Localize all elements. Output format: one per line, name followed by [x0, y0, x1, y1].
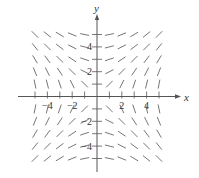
slope-segment [69, 69, 75, 75]
slope-segment [131, 44, 138, 49]
slope-segment [70, 80, 74, 88]
slope-segment [118, 33, 126, 36]
slope-segment [58, 105, 61, 113]
slope-segment [146, 80, 148, 88]
slope-segment [34, 105, 36, 113]
slope-segment [68, 157, 76, 160]
slope-segment [46, 80, 48, 88]
y-tick-label: 4 [87, 41, 92, 52]
slope-segment [156, 143, 161, 150]
slope-segment [144, 56, 149, 63]
slope-segment [69, 131, 76, 136]
y-tick-label: −2 [81, 116, 92, 127]
slope-segment [57, 68, 62, 75]
slope-segment [143, 156, 150, 161]
slope-segment [81, 132, 89, 135]
slope-segment [106, 70, 114, 74]
y-axis-label: y [93, 2, 99, 14]
slope-segment [69, 57, 76, 62]
x-tick-label: −2 [67, 100, 78, 111]
slope-segment [119, 69, 125, 75]
slope-segment [106, 119, 114, 123]
y-tick-label: −4 [81, 141, 92, 152]
slope-segment [133, 105, 136, 113]
slope-segment [105, 132, 113, 135]
slope-segment [145, 68, 149, 76]
slope-segment [68, 144, 76, 148]
slope-segment [143, 32, 150, 37]
slope-segment [144, 143, 150, 149]
slope-segment [157, 130, 161, 137]
slope-segment [58, 80, 61, 88]
slope-segment [118, 144, 126, 148]
slope-segment [56, 144, 63, 149]
axes [18, 14, 181, 172]
slope-segment [144, 44, 150, 50]
x-tick-label: 4 [144, 100, 149, 111]
x-axis-label: x [183, 91, 189, 103]
slope-segment [46, 68, 50, 76]
slope-segment [131, 56, 137, 62]
slope-segment [157, 68, 160, 76]
slope-segment [145, 118, 149, 126]
slope-segment [33, 117, 36, 125]
slope-segment [157, 117, 160, 125]
slope-segment [118, 45, 126, 49]
slope-field-figure: x y −4−224 42−2−4 [0, 0, 199, 178]
slope-segment [157, 56, 161, 63]
x-tick-label: −4 [42, 100, 53, 111]
slope-segment [57, 56, 63, 62]
slope-segment [46, 118, 50, 126]
slope-segment [82, 81, 88, 87]
slope-segment [156, 32, 162, 38]
slope-segment [33, 130, 37, 137]
slope-segment [158, 80, 160, 88]
slope-segment [57, 118, 62, 125]
slope-segment [106, 81, 112, 87]
slope-segment [131, 32, 138, 36]
slope-segment [133, 80, 136, 88]
slope-segment [158, 105, 160, 113]
slope-segment [132, 118, 137, 125]
slope-segment [156, 44, 161, 51]
slope-segment [118, 57, 125, 62]
slope-segment [105, 34, 113, 36]
slope-segment [45, 56, 50, 63]
slope-segment [118, 157, 126, 160]
slope-segment [131, 156, 138, 160]
slope-segment [44, 32, 51, 37]
slope-segment [44, 156, 51, 161]
slope-segment [33, 68, 36, 76]
slope-segment [80, 34, 88, 36]
slope-segment [106, 106, 112, 112]
slope-segment [131, 144, 138, 149]
slope-segment [81, 58, 89, 61]
slope-segment [105, 58, 113, 61]
y-axis-arrowhead-icon [95, 14, 99, 20]
slope-segment [56, 156, 63, 160]
slope-segment [132, 68, 137, 75]
slope-segment [156, 156, 162, 162]
slope-segment [119, 118, 125, 124]
slope-segment [131, 131, 137, 137]
slope-segment [105, 145, 113, 147]
slope-segment [45, 130, 50, 137]
y-tick-label: 2 [87, 66, 92, 77]
slope-segment [44, 44, 50, 50]
slope-segment [68, 45, 76, 49]
slope-segment [69, 118, 75, 124]
slope-segment [120, 80, 124, 88]
x-tick-label: 2 [119, 100, 124, 111]
slope-field-plot: x y −4−224 42−2−4 [0, 0, 199, 178]
slope-segment [32, 32, 38, 38]
slope-segment [105, 158, 113, 160]
slope-segment [105, 46, 113, 48]
slope-segment [32, 156, 38, 162]
x-axis-arrowhead-icon [175, 94, 181, 98]
slope-segment [32, 143, 37, 150]
slope-segment [80, 158, 88, 160]
slope-segment [33, 56, 37, 63]
slope-segment [57, 131, 63, 137]
slope-segment [118, 131, 125, 136]
slope-segment [56, 44, 63, 49]
